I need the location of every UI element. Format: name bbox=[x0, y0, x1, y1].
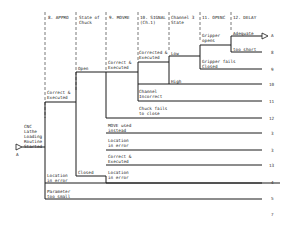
branch-channel-incorrect: Channel Incorrect bbox=[139, 89, 162, 99]
branch-chuck-fails: Chuck fails to close bbox=[139, 106, 167, 116]
branch-approx-ok: Correct & Executed bbox=[47, 90, 70, 100]
outcome-label: 13 bbox=[269, 163, 274, 168]
branch-closed-ok: Correct & Executed bbox=[108, 154, 131, 164]
outcome-label: 3 bbox=[271, 131, 274, 136]
header-movre: 9. MOVRE bbox=[109, 15, 130, 20]
outcome-label: 11 bbox=[269, 99, 274, 104]
branch-location-err-1: Location in error bbox=[108, 138, 129, 148]
header-chuck-state: State of Chuck bbox=[79, 15, 100, 25]
header-openc: 11. OPENC bbox=[202, 15, 225, 20]
outcome-label: 7 bbox=[271, 212, 274, 217]
branch-gripper-fails: Gripper fails Closed bbox=[202, 59, 236, 69]
outcome-label: A bbox=[271, 33, 274, 38]
start-marker: A bbox=[16, 152, 19, 157]
header-approx: 8. APPRO bbox=[48, 15, 69, 20]
branch-signal-ok: Corrected & Executed bbox=[139, 50, 167, 60]
outcome-label: 12 bbox=[269, 116, 274, 121]
outcome-label: 10 bbox=[269, 82, 274, 87]
branch-low: Low bbox=[171, 51, 179, 56]
branch-param-small: Parameter too small bbox=[47, 189, 70, 199]
start-label: CNC Lathe Loading Routine Started bbox=[24, 124, 42, 149]
outcome-label: 3 bbox=[271, 148, 274, 153]
branch-location-err-3: Location in error bbox=[47, 173, 68, 183]
branch-move-used: MOVE used instead bbox=[108, 123, 131, 133]
branch-adequate: Adequate bbox=[233, 31, 254, 36]
end-arrow-icon bbox=[262, 33, 268, 39]
outcome-label: 9 bbox=[271, 67, 274, 72]
outcome-label: 5 bbox=[271, 196, 274, 201]
outcome-label: 8 bbox=[271, 50, 274, 55]
branch-gripper-opens: Gripper opens bbox=[202, 33, 220, 43]
header-delay: 12. DELAY bbox=[233, 15, 256, 20]
branch-closed: Closed bbox=[78, 170, 94, 175]
header-signal: 10. SIGNAL (Ch.1) bbox=[140, 15, 166, 25]
outcome-label: 4 bbox=[271, 180, 274, 185]
start-arrow-icon bbox=[16, 144, 22, 150]
branch-too-short: too short bbox=[233, 47, 256, 52]
branch-movre-ok: Correct & Executed bbox=[108, 60, 131, 70]
branch-high: High bbox=[171, 79, 181, 84]
branch-location-err-2: Location in error bbox=[108, 170, 129, 180]
header-channel3: Channel 3 State bbox=[171, 15, 194, 25]
branch-open: Open bbox=[78, 66, 88, 71]
